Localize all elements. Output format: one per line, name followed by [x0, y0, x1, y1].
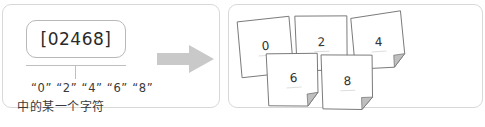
- brace-horizontal-line: [26, 65, 126, 66]
- card-label-4: 4: [351, 34, 407, 51]
- right-arrow-icon: [157, 44, 215, 74]
- brace-vertical-line: [75, 65, 76, 79]
- card-label-8: 8: [320, 73, 375, 89]
- card-digit-8: 8: [319, 51, 376, 113]
- caption-group: “0” “2” “4” “6” “8” 中的某一个字符: [17, 81, 217, 114]
- diagram-canvas: [02468] “0” “2” “4” “6” “8” 中的某一个字符 0 2: [0, 0, 485, 127]
- caption-characters: “0” “2” “4” “6” “8”: [17, 81, 217, 95]
- card-digit-6: 6: [264, 47, 323, 111]
- caption-note: 中的某一个字符: [17, 97, 217, 114]
- regex-pattern-text: [02468]: [41, 29, 112, 49]
- regex-pattern-box: [02468]: [26, 20, 126, 58]
